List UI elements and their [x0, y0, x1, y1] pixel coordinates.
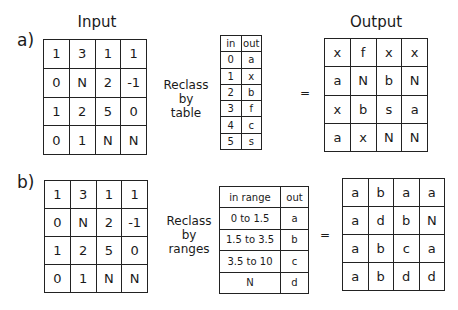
cell: -1: [121, 68, 147, 97]
cell: 0: [121, 97, 147, 126]
cell: b: [376, 67, 402, 95]
description-line: ranges: [160, 242, 218, 256]
part-a-input-grid: 1311 0N2-1 1250 01NN: [43, 39, 147, 155]
cell: 1: [45, 237, 71, 265]
lut-in: 5: [221, 133, 242, 149]
cell: 1: [44, 97, 70, 126]
cell: 1: [95, 40, 121, 69]
cell: N: [70, 209, 96, 237]
cell: 2: [70, 237, 96, 265]
part-b-description: Reclass by ranges: [160, 214, 218, 256]
cell: N: [69, 68, 95, 97]
cell: a: [343, 179, 369, 207]
cell: x: [350, 123, 376, 151]
cell: a: [394, 179, 420, 207]
cell: N: [402, 67, 428, 95]
part-a-output-grid: xfxx aNbN xbsa axNN: [324, 38, 428, 152]
cell: s: [376, 95, 402, 123]
header-in: in: [221, 36, 242, 52]
cell: a: [343, 207, 369, 235]
lut-out: a: [241, 52, 262, 68]
part-b-equals-sign: =: [320, 228, 330, 242]
cell: 1: [121, 40, 147, 69]
cell: b: [368, 263, 394, 291]
input-heading: Input: [45, 13, 149, 31]
description-line: by: [158, 92, 214, 106]
cell: 2: [95, 68, 121, 97]
cell: 3: [70, 181, 96, 209]
description-line: by: [160, 228, 218, 242]
cell: 5: [96, 237, 122, 265]
lut-in: 4: [221, 117, 242, 133]
range-out: a: [281, 208, 309, 229]
cell: 1: [45, 181, 71, 209]
cell: 1: [69, 126, 95, 155]
cell: N: [121, 126, 147, 155]
lut-out: s: [241, 133, 262, 149]
cell: a: [419, 235, 445, 263]
lut-out: f: [241, 101, 262, 117]
cell: d: [368, 207, 394, 235]
cell: N: [350, 67, 376, 95]
cell: d: [419, 263, 445, 291]
header-in-range: in range: [220, 187, 281, 208]
cell: b: [368, 235, 394, 263]
cell: N: [95, 126, 121, 155]
lut-in: 2: [221, 84, 242, 100]
range-in: 1.5 to 3.5: [220, 229, 281, 250]
range-out: c: [281, 251, 309, 272]
part-a-lookup-table: inout 0a 1x 2b 3f 4c 5s: [220, 35, 262, 150]
cell: a: [343, 235, 369, 263]
part-a-label: a): [17, 30, 34, 50]
cell: 2: [69, 97, 95, 126]
cell: d: [394, 263, 420, 291]
cell: b: [368, 179, 394, 207]
header-out: out: [241, 36, 262, 52]
part-b-label: b): [17, 172, 34, 192]
cell: N: [419, 207, 445, 235]
cell: 0: [44, 126, 70, 155]
description-line: table: [158, 106, 214, 120]
part-a-description: Reclass by table: [158, 78, 214, 120]
part-b-range-table: in rangeout 0 to 1.5a 1.5 to 3.5b 3.5 to…: [219, 186, 309, 294]
cell: 1: [70, 265, 96, 293]
cell: 0: [45, 265, 71, 293]
header-out: out: [281, 187, 309, 208]
output-heading: Output: [324, 13, 428, 31]
cell: a: [419, 179, 445, 207]
cell: N: [122, 265, 148, 293]
cell: 1: [96, 181, 122, 209]
part-a-equals-sign: =: [300, 86, 310, 100]
lut-in: 0: [221, 52, 242, 68]
cell: x: [402, 39, 428, 67]
cell: b: [394, 207, 420, 235]
lut-out: b: [241, 84, 262, 100]
cell: -1: [122, 209, 148, 237]
range-out: b: [281, 229, 309, 250]
cell: 3: [69, 40, 95, 69]
description-line: Reclass: [158, 78, 214, 92]
cell: a: [325, 67, 351, 95]
cell: 0: [45, 209, 71, 237]
cell: 1: [44, 40, 70, 69]
cell: x: [325, 95, 351, 123]
cell: a: [325, 123, 351, 151]
part-b-input-grid: 1311 0N2-1 1250 01NN: [44, 180, 148, 293]
cell: N: [96, 265, 122, 293]
cell: N: [376, 123, 402, 151]
cell: 0: [44, 68, 70, 97]
cell: a: [343, 263, 369, 291]
cell: x: [376, 39, 402, 67]
part-b-output-grid: abaa adbN abca abdd: [342, 178, 445, 291]
range-in: 0 to 1.5: [220, 208, 281, 229]
lut-out: x: [241, 68, 262, 84]
cell: b: [350, 95, 376, 123]
cell: c: [394, 235, 420, 263]
range-in: 3.5 to 10: [220, 251, 281, 272]
lut-in: 3: [221, 101, 242, 117]
cell: a: [402, 95, 428, 123]
cell: x: [325, 39, 351, 67]
range-in: N: [220, 272, 281, 293]
cell: 0: [122, 237, 148, 265]
description-line: Reclass: [160, 214, 218, 228]
